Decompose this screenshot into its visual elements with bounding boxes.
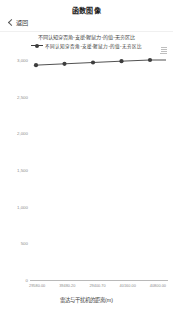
download-chart-icon-bars: [161, 47, 167, 52]
legend-item-label: 不同认知穿否角-支援-猩鼠力-的值-无穷区比: [45, 43, 141, 49]
y-axis-tick-label: 2,000: [17, 131, 28, 136]
series-line: [36, 60, 166, 65]
chart-legend: 不同认知穿否角-支援-猩鼠力-的值-无穷区比: [0, 41, 173, 50]
chart-description: 不同认知穿否角-支援-猩鼠力-的值-无穷区比: [0, 33, 173, 41]
x-axis-tick-label: 29580.00: [22, 283, 52, 288]
series-svg: [30, 52, 170, 292]
data-point-marker[interactable]: [62, 62, 66, 66]
y-axis-tick-label: 0: [26, 278, 28, 283]
x-axis-tick-label: 39480.20: [52, 283, 82, 288]
y-axis-tick-label: 2,500: [17, 94, 28, 99]
back-button[interactable]: 返回: [9, 18, 28, 27]
x-axis-tick-label: 40800.00: [143, 283, 173, 288]
plot-area: [30, 52, 170, 292]
x-axis-line: [30, 280, 168, 281]
legend-line-marker-icon: [31, 43, 43, 49]
navigation-bar: 返回: [0, 12, 173, 32]
back-button-label: 返回: [16, 18, 28, 27]
data-point-marker[interactable]: [91, 60, 95, 64]
data-point-marker[interactable]: [119, 59, 123, 63]
y-axis-tick-label: 1,000: [17, 204, 28, 209]
data-point-marker[interactable]: [148, 58, 152, 62]
x-axis-tick-label: 29400.70: [82, 283, 112, 288]
data-point-marker[interactable]: [34, 63, 38, 67]
navbar-divider: [0, 31, 173, 32]
chevron-left-icon: [8, 18, 15, 25]
y-axis-tick-labels: 3,0002,5002,0001,5001,0005000: [0, 52, 30, 292]
x-axis-tick-label: 40160.00: [113, 283, 143, 288]
x-axis-title: 雷达与干扰机的距离(m): [0, 296, 173, 304]
y-axis-tick-label: 1,500: [17, 168, 28, 173]
x-axis-tick-labels: 29580.0039480.2029400.7040160.0040800.00: [22, 283, 173, 288]
y-axis-tick-label: 500: [21, 241, 28, 246]
line-chart: 3,0002,5002,0001,5001,0005000: [0, 52, 173, 292]
y-axis-tick-label: 3,000: [17, 58, 28, 63]
legend-item[interactable]: 不同认知穿否角-支援-猩鼠力-的值-无穷区比: [31, 43, 141, 49]
